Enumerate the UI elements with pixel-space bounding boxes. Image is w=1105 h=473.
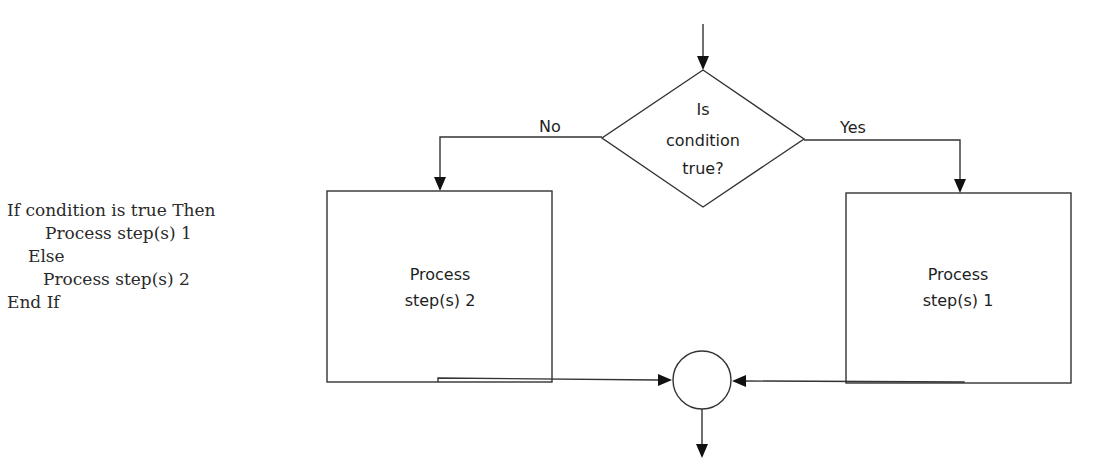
decision-diamond: Is condition true? [602, 70, 804, 207]
decision-text-1: Is [696, 100, 709, 119]
exit-arrow [696, 409, 708, 458]
merge-connector-circle [673, 351, 731, 409]
yes-label: Yes [839, 118, 866, 137]
flowchart: Is condition true? No Yes Process step(s… [0, 0, 1105, 473]
decision-text-2: condition [666, 131, 740, 150]
process-false-text-1: Process [410, 265, 471, 284]
yes-branch-connector: Yes [804, 118, 966, 193]
arrowhead-icon [696, 444, 708, 458]
process-true-text-2: step(s) 1 [923, 291, 994, 310]
arrowhead-icon [954, 179, 966, 193]
process-box-false: Process step(s) 2 [327, 191, 552, 382]
entry-arrow [697, 24, 709, 70]
decision-text-3: true? [682, 159, 723, 178]
process-false-text-2: step(s) 2 [405, 291, 476, 310]
arrowhead-icon [658, 374, 672, 386]
arrowhead-icon [434, 177, 446, 191]
process-true-text-1: Process [928, 265, 989, 284]
no-label: No [539, 117, 561, 136]
arrowhead-icon [697, 56, 709, 70]
process-box-true: Process step(s) 1 [846, 193, 1071, 383]
no-branch-connector: No [434, 117, 602, 191]
arrowhead-icon [732, 375, 746, 387]
